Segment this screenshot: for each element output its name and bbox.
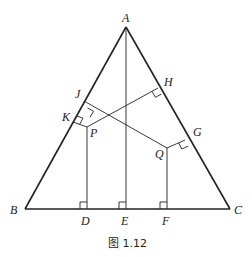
triangle-abc bbox=[25, 27, 230, 209]
label-e: E bbox=[120, 214, 129, 228]
label-f: F bbox=[161, 214, 170, 228]
segments-q bbox=[84, 101, 185, 209]
label-k: K bbox=[61, 110, 71, 124]
label-g: G bbox=[193, 125, 202, 139]
segments-p bbox=[73, 88, 158, 209]
label-b: B bbox=[10, 203, 18, 217]
label-h: H bbox=[163, 75, 174, 89]
label-p: P bbox=[89, 126, 98, 140]
label-c: C bbox=[234, 203, 243, 217]
label-a: A bbox=[121, 11, 130, 25]
right-angle-marks bbox=[76, 91, 188, 209]
label-d: D bbox=[80, 214, 90, 228]
label-j: J bbox=[75, 87, 81, 101]
figure-caption: 图 1.12 bbox=[108, 237, 147, 250]
label-q: Q bbox=[155, 147, 164, 161]
geometry-diagram: A B C D E F G H J K P Q 图 1.12 bbox=[0, 0, 252, 257]
